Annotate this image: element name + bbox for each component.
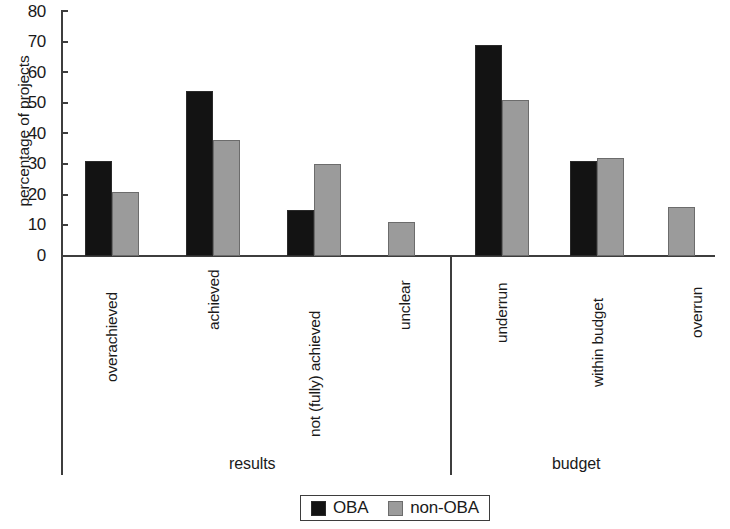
category-label-within-budget: within budget xyxy=(590,298,606,387)
category-label-unclear: unclear xyxy=(397,281,413,330)
section-divider-line xyxy=(450,256,452,475)
category-label-overrun: overrun xyxy=(689,287,705,338)
plot-area xyxy=(0,0,730,256)
legend-entry-oba: OBA xyxy=(311,498,368,518)
bar-oba-within-budget xyxy=(570,161,597,256)
bar-nonoba-underrun xyxy=(502,100,529,256)
section-label-budget: budget xyxy=(552,455,600,473)
bar-chart: percentage of projects 80 70 60 50 40 30… xyxy=(0,0,730,529)
legend-entry-nonoba: non-OBA xyxy=(388,498,479,518)
bar-oba-not-fully-achieved xyxy=(287,210,314,256)
bar-nonoba-unclear xyxy=(388,222,415,256)
legend-label-nonoba: non-OBA xyxy=(410,498,479,518)
legend-swatch-nonoba-icon xyxy=(388,501,403,516)
chart-legend: OBA non-OBA xyxy=(300,495,490,521)
bar-oba-underrun xyxy=(475,45,502,256)
bar-nonoba-within-budget xyxy=(597,158,624,256)
category-label-underrun: underrun xyxy=(494,283,510,343)
bar-nonoba-not-fully-achieved xyxy=(314,164,341,256)
bar-nonoba-overrun xyxy=(668,207,695,256)
category-label-overachieved: overachieved xyxy=(104,292,120,382)
bar-oba-overachieved xyxy=(85,161,112,256)
legend-label-oba: OBA xyxy=(333,498,368,518)
category-label-achieved: achieved xyxy=(206,270,222,330)
bar-nonoba-overachieved xyxy=(112,192,139,256)
bar-nonoba-achieved xyxy=(213,140,240,256)
legend-swatch-oba-icon xyxy=(311,501,326,516)
section-label-results: results xyxy=(229,455,275,473)
category-label-not-fully-achieved: not (fully) achieved xyxy=(307,311,323,437)
bar-oba-achieved xyxy=(186,91,213,256)
